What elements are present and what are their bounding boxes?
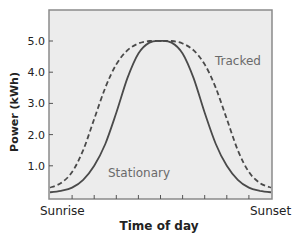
x-tick-label-sunset: Sunset: [250, 204, 291, 218]
x-tick-label-sunrise: Sunrise: [40, 204, 85, 218]
stationary-label: Stationary: [108, 166, 170, 180]
y-tick-label: 2.0: [28, 129, 46, 142]
x-axis-title: Time of day: [120, 219, 199, 233]
y-tick-label: 3.0: [28, 97, 46, 110]
y-tick-label: 1.0: [28, 160, 46, 173]
y-tick-label: 4.0: [28, 66, 46, 79]
y-axis-title: Power (kWh): [8, 72, 21, 152]
tracked-label: Tracked: [214, 54, 261, 68]
y-tick-label: 5.0: [28, 35, 46, 48]
power-chart: 1.02.03.04.05.0 Tracked Stationary Sunri…: [0, 0, 294, 241]
